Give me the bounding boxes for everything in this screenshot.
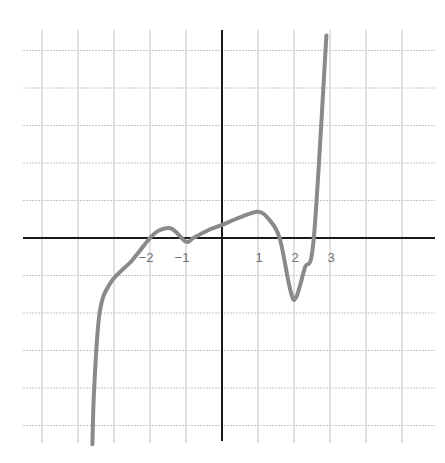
function-curve <box>92 36 326 445</box>
x-tick-label: 2 <box>291 250 298 265</box>
axes <box>23 30 435 441</box>
x-tick-label: −1 <box>175 250 190 265</box>
x-tick-labels: −2−1123 <box>139 250 335 265</box>
x-tick-label: 1 <box>255 250 262 265</box>
x-tick-label: 3 <box>327 250 334 265</box>
grid-lines <box>23 30 435 443</box>
function-graph: −2−1123 <box>0 0 445 463</box>
